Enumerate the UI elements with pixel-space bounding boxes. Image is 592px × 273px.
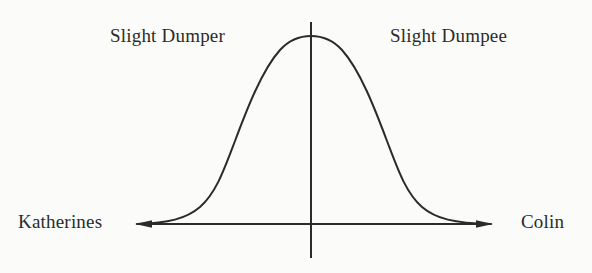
label-slight-dumper: Slight Dumper bbox=[110, 25, 225, 47]
label-katherines: Katherines bbox=[18, 211, 102, 233]
bell-curve-figure: Slight Dumper Slight Dumpee Katherines C… bbox=[0, 0, 592, 273]
gaussian-curve bbox=[137, 36, 491, 224]
label-colin: Colin bbox=[521, 211, 564, 233]
label-slight-dumpee: Slight Dumpee bbox=[390, 25, 507, 47]
